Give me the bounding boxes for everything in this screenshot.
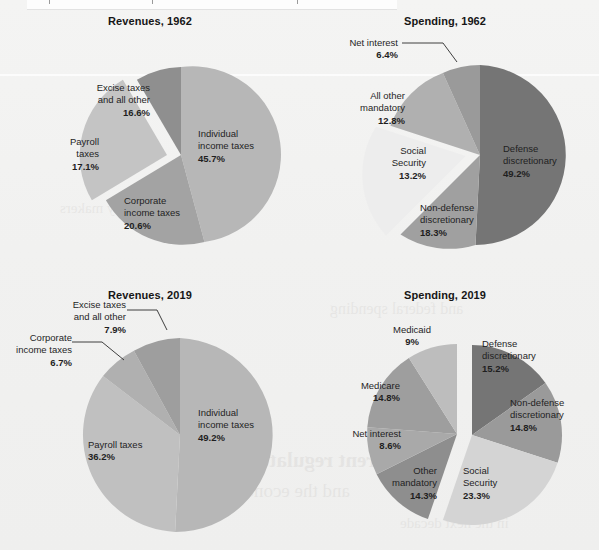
pie-label-value: 23.3%	[463, 490, 573, 502]
pie-label-other-mandatory: Other mandatory 14.3%	[300, 465, 437, 502]
pie-label-medicaid: Medicaid 9%	[368, 324, 456, 349]
pie-label-name: Corporate	[124, 195, 254, 207]
strip-tick	[152, 0, 153, 4]
pie-label-name: Defense	[503, 143, 599, 155]
pie-label-excise-taxes-and-all-other: Excise taxes and all other 16.6%	[30, 82, 150, 119]
pie-label-all-other-mandatory: All other mandatory 12.8%	[260, 90, 405, 127]
pie-label-name2: discretionary	[482, 350, 599, 362]
pie-label-corporate-income-taxes: Corporate income taxes 6.7%	[0, 332, 72, 369]
chart-revenues-1962: Revenues, 1962 Excise taxes and all othe…	[0, 10, 300, 275]
chart-spending-1962: Spending, 1962 Net interest 6.4% All oth…	[300, 10, 599, 275]
pie-label-name2: mandatory	[300, 477, 437, 489]
pie-label-defense-discretionary: Defense discretionary 49.2%	[503, 143, 599, 180]
pie-label-name2: income taxes	[0, 344, 72, 356]
pie-label-value: 6.4%	[270, 49, 398, 61]
pie-label-name: Medicare	[292, 380, 400, 392]
pie-label-name2: mandatory	[260, 102, 405, 114]
pie-label-value: 13.2%	[256, 170, 426, 182]
pie-label-non-defense-discretionary: Non-defense discretionary 14.8%	[510, 397, 599, 434]
pie-label-medicare: Medicare 14.8%	[292, 380, 400, 405]
pie-label-value: 8.6%	[276, 440, 401, 452]
strip-tick	[297, 0, 298, 4]
pie-label-value: 16.6%	[30, 107, 150, 119]
pie-label-name2: and all other	[30, 94, 150, 106]
pie-label-value: 14.8%	[292, 392, 400, 404]
pie-label-excise-taxes-and-all-other: Excise taxes and all other 7.9%	[0, 299, 126, 336]
pie-label-name: Excise taxes	[30, 82, 150, 94]
pie-label-value: 36.2%	[88, 451, 228, 463]
pie-label-value: 15.2%	[482, 363, 599, 375]
pie-label-name2: and all other	[0, 311, 126, 323]
pie-label-net-interest: Net interest 8.6%	[276, 428, 401, 453]
pie-label-name: Defense	[482, 338, 599, 350]
pie-label-value: 18.3%	[420, 227, 560, 239]
pie-label-name: Social	[256, 145, 426, 157]
pie-label-name: Corporate	[0, 332, 72, 344]
pie-label-name2: Security	[463, 477, 573, 489]
pie-label-value: 14.8%	[510, 422, 599, 434]
pie-label-name2: discretionary	[420, 214, 560, 226]
pie-label-name2: Security	[256, 157, 426, 169]
pie-label-name: Medicaid	[368, 324, 456, 336]
pie-label-name2: discretionary	[510, 409, 599, 421]
pie-label-name: Net interest	[276, 428, 401, 440]
pie-label-name2: discretionary	[503, 155, 599, 167]
pie-label-name: All other	[260, 90, 405, 102]
pie-label-value: 9%	[368, 336, 456, 348]
pie-label-value: 12.8%	[260, 115, 405, 127]
pie-label-corporate-income-taxes: Corporate income taxes 20.6%	[124, 195, 254, 232]
pie-label-value: 14.3%	[300, 490, 437, 502]
strip-tick	[49, 0, 50, 4]
chart-revenues-2019: Revenues, 2019 Excise taxes and all othe…	[0, 280, 300, 550]
pie-label-name2: taxes	[0, 148, 99, 160]
pie-label-value: 49.2%	[503, 168, 599, 180]
pie-label-payroll-taxes: Payroll taxes 17.1%	[0, 136, 99, 173]
pie-label-name: Payroll	[0, 136, 99, 148]
pie-label-defense-discretionary: Defense discretionary 15.2%	[482, 338, 599, 375]
pie-label-social-security: Social Security 23.3%	[463, 465, 573, 502]
pie-label-name: Social	[463, 465, 573, 477]
pie-label-social-security: Social Security 13.2%	[256, 145, 426, 182]
pie-label-name: Non-defense	[420, 202, 560, 214]
pie-label-name2: income taxes	[124, 207, 254, 219]
pie-label-name: Other	[300, 465, 437, 477]
pie-label-value: 17.1%	[0, 161, 99, 173]
pie-label-name: Net interest	[270, 37, 398, 49]
pie-label-name: Non-defense	[510, 397, 599, 409]
pie-label-name: Excise taxes	[0, 299, 126, 311]
pie-label-net-interest: Net interest 6.4%	[270, 37, 398, 62]
page-top-strip	[27, 0, 397, 10]
chart-spending-2019: Spending, 2019 Medicaid	[300, 280, 599, 550]
pie-label-value: 20.6%	[124, 220, 254, 232]
pie-label-value: 6.7%	[0, 357, 72, 369]
pie-label-non-defense-discretionary: Non-defense discretionary 18.3%	[420, 202, 560, 239]
